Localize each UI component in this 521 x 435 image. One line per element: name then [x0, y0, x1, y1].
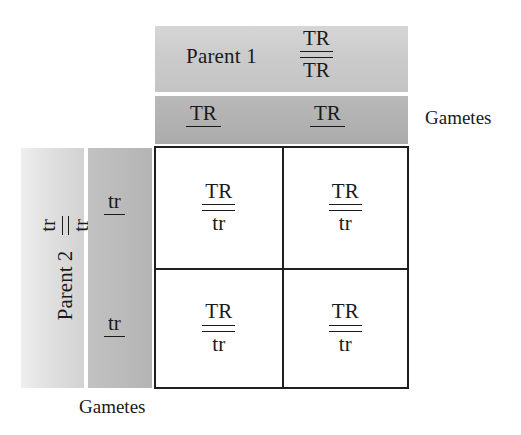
offspring-genotype-top: TR — [202, 301, 235, 322]
homologous-pair-rule — [202, 325, 235, 332]
parent1-genotype-bottom: TR — [300, 60, 333, 81]
parent2-genotype-group: Parent 2 tr tr — [34, 155, 96, 381]
parent1-genotype-top: TR — [300, 28, 333, 49]
offspring-genotype-bottom: tr — [329, 213, 362, 234]
parent1-label: Parent 1 — [186, 44, 257, 69]
parent2-gametes-band — [88, 148, 152, 388]
parent2-gamete-1-allele: tr — [104, 190, 125, 212]
parent2-gamete-1: tr — [104, 190, 125, 215]
homologous-pair-rule — [202, 204, 235, 211]
offspring-genotype-bottom: tr — [329, 334, 362, 355]
offspring-genotype-top: TR — [329, 181, 362, 202]
offspring-genotype-bottom: tr — [202, 334, 235, 355]
chromatid-rule — [310, 126, 345, 127]
gametes-label-right: Gametes — [425, 107, 491, 129]
homologous-pair-rule — [62, 216, 69, 235]
offspring-genotype-top: TR — [329, 301, 362, 322]
homologous-pair-rule — [329, 204, 362, 211]
chromatid-rule — [104, 214, 125, 215]
parent2-gamete-2: tr — [104, 312, 125, 337]
punnett-cell-top-right: TR tr — [282, 148, 408, 268]
chromatid-rule — [186, 126, 221, 127]
punnett-cell-bottom-right: TR tr — [282, 268, 408, 388]
parent2-label: Parent 2 — [53, 251, 78, 320]
parent1-gamete-1: TR — [186, 102, 221, 127]
parent2-gamete-2-allele: tr — [104, 312, 125, 334]
gametes-label-bottom: Gametes — [79, 396, 145, 418]
punnett-grid: TR tr TR tr TR tr TR tr — [154, 146, 409, 389]
offspring-genotype-bottom: tr — [202, 213, 235, 234]
homologous-pair-rule — [329, 325, 362, 332]
homologous-pair-rule — [300, 51, 333, 58]
parent2-genotype: tr tr — [38, 216, 92, 235]
parent2-genotype-top: tr — [38, 216, 59, 235]
punnett-cell-bottom-left: TR tr — [156, 268, 282, 388]
parent1-genotype: TR TR — [300, 28, 333, 82]
parent1-gamete-2-allele: TR — [310, 102, 345, 124]
parent1-gamete-1-allele: TR — [186, 102, 221, 124]
punnett-cell-top-left: TR tr — [156, 148, 282, 268]
punnett-square-diagram: Parent 1 TR TR TR TR Parent 2 tr tr — [0, 0, 521, 435]
parent1-gamete-2: TR — [310, 102, 345, 127]
chromatid-rule — [104, 336, 125, 337]
offspring-genotype-top: TR — [202, 181, 235, 202]
